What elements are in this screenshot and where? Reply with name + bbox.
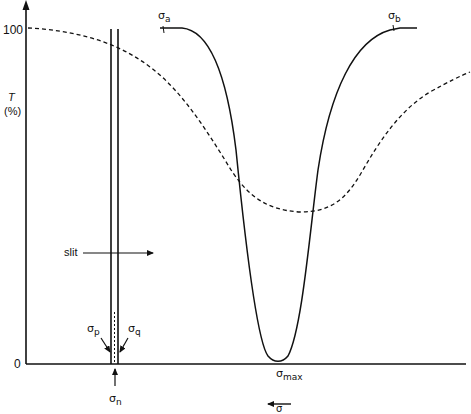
diagram-canvas (0, 0, 471, 414)
y-tick-0: 0 (14, 358, 21, 370)
y-axis-label-t: T (8, 92, 15, 103)
sigma-p-arrow (101, 338, 110, 352)
sigma-a-tick (163, 26, 164, 33)
true-band-solid-curve (160, 28, 417, 361)
sigma-direction-label: σ (276, 404, 282, 414)
y-axis-arrow-icon (23, 0, 30, 10)
sigma-n-label: σn (109, 393, 122, 404)
y-axis (23, 0, 30, 364)
slit-label: slit (64, 247, 77, 258)
sigma-b-label: σb (388, 10, 401, 21)
y-axis-label-percent: (%) (4, 106, 21, 117)
sigma-a-label: σa (158, 10, 171, 21)
observed-band-dashed-curve (28, 28, 470, 212)
y-tick-100: 100 (3, 24, 23, 36)
slit (111, 29, 118, 364)
sigma-q-arrow (120, 338, 128, 352)
sigma-p-label: σp (87, 323, 100, 334)
sigma-max-label: σmax (276, 368, 303, 379)
sigma-q-label: σq (128, 323, 141, 334)
